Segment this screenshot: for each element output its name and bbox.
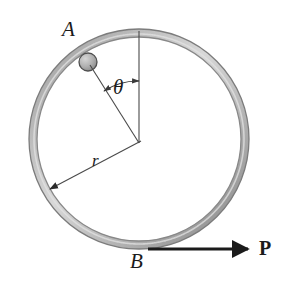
bead [79, 53, 97, 71]
label-point-a: A [62, 19, 75, 40]
label-angle-theta: θ [113, 77, 123, 98]
physics-diagram-figure: A θ r B P [0, 0, 292, 289]
bead-group [79, 53, 97, 71]
label-point-b: B [130, 251, 143, 272]
label-force-p: P [259, 238, 271, 258]
diagram-canvas [0, 0, 292, 289]
label-radius-r: r [92, 152, 99, 169]
